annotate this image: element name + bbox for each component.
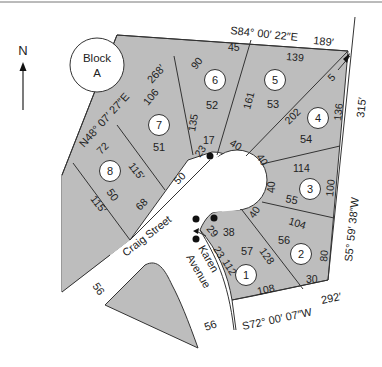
lot-2-number: 2 bbox=[298, 248, 304, 260]
lot-4-marker: 4 bbox=[308, 108, 329, 129]
monument-dot bbox=[207, 153, 214, 160]
dim-38: 38 bbox=[223, 226, 235, 238]
dim-139: 139 bbox=[286, 50, 305, 63]
lot-1-area: 57 bbox=[241, 245, 253, 257]
bearing-east-length: 315′ bbox=[354, 97, 368, 119]
lot-7-number: 7 bbox=[156, 119, 162, 131]
lot-4-number: 4 bbox=[315, 112, 321, 124]
dim-45: 45 bbox=[228, 41, 240, 53]
lot-3-area: 55 bbox=[285, 192, 299, 206]
monument-dot bbox=[211, 215, 218, 222]
lot-8-marker: 8 bbox=[100, 161, 121, 182]
dim-30: 30 bbox=[306, 273, 318, 285]
lot-7-marker: 7 bbox=[149, 115, 170, 136]
lot-6-number: 6 bbox=[212, 74, 218, 86]
block-label-2: A bbox=[93, 67, 101, 79]
lot-2-area: 56 bbox=[278, 234, 290, 246]
lot-8-number: 8 bbox=[107, 165, 113, 177]
lot-3-marker: 3 bbox=[300, 179, 321, 200]
dim-40-lot3: 40 bbox=[265, 181, 277, 193]
lot-1-number: 1 bbox=[243, 269, 249, 281]
dim-100: 100 bbox=[323, 178, 337, 197]
north-label: N bbox=[18, 43, 27, 58]
bearing-north-length: 189′ bbox=[313, 34, 335, 48]
block-marker bbox=[70, 38, 124, 92]
monument-dot bbox=[193, 216, 200, 223]
bearing-north: S84° 00′ 22″E bbox=[230, 24, 299, 43]
lot-1-marker: 1 bbox=[236, 265, 257, 286]
lot-3-number: 3 bbox=[307, 183, 313, 195]
lot-7-area: 51 bbox=[153, 141, 165, 153]
lot-6-area: 52 bbox=[206, 99, 218, 111]
southwest-boundary-tail bbox=[232, 300, 236, 330]
dim-114: 114 bbox=[293, 162, 310, 174]
lot-5-number: 5 bbox=[272, 74, 278, 86]
street-width-b: 56 bbox=[203, 317, 219, 332]
lot-6-marker: 6 bbox=[205, 70, 226, 91]
lot-4-area: 54 bbox=[300, 133, 312, 145]
dim-80: 80 bbox=[317, 249, 330, 262]
north-arrow-head-icon bbox=[20, 62, 27, 71]
lot-5-area: 53 bbox=[267, 98, 279, 110]
bearing-south-length: 292′ bbox=[320, 290, 342, 306]
plat-map: N Block A N48° 07′ 27″E 268′ S84° 00′ 22… bbox=[0, 0, 382, 367]
dim-17: 17 bbox=[203, 134, 215, 146]
arrowhead-icon bbox=[193, 228, 199, 234]
dim-136: 136 bbox=[331, 102, 345, 121]
dim-108: 108 bbox=[256, 282, 276, 297]
monument-dot bbox=[193, 236, 200, 243]
lot-2-marker: 2 bbox=[291, 244, 312, 265]
bearing-south: S72° 00′ 07″W bbox=[241, 305, 313, 332]
lot-5-marker: 5 bbox=[265, 70, 286, 91]
block-label-1: Block bbox=[83, 52, 111, 64]
bearing-east: S5° 59′ 38″W bbox=[342, 196, 361, 262]
